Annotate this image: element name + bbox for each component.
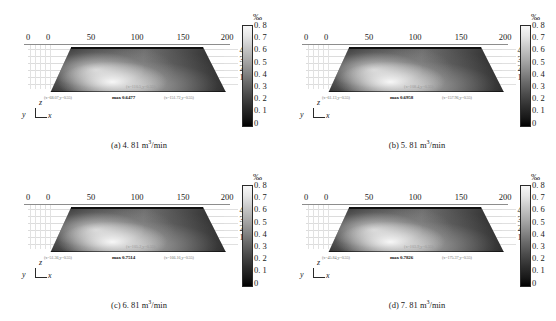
x-tick-label: 150 <box>455 192 468 202</box>
x-tick-label: 200 <box>221 32 234 42</box>
colorbar-tick-label: 0. 1 <box>532 265 545 275</box>
max-value-label: max 0.6477 <box>112 95 135 101</box>
colorbar-tick-label: 0. 6 <box>254 44 267 54</box>
axis-label-x: x <box>326 111 330 120</box>
colorbar-tick-label: 0. 3 <box>254 241 267 251</box>
contour-panel-d: 0050100150200 403020100 (x=45.84,y=0.55)… <box>278 160 556 320</box>
caption-text: (c) 6. 81 m <box>111 300 148 310</box>
x-tick-label: 0 <box>304 32 308 42</box>
contour-panel-b: 0050100150200 403020100 (x=61.13,y=0.55)… <box>278 0 556 160</box>
x-axis-ticks: 0050100150200 <box>296 192 524 204</box>
probe-label-right: (x=175.37,y=0.55) <box>442 255 472 260</box>
colorbar-tick-label: 0. 8 <box>532 20 545 30</box>
axis-label-y: y <box>300 270 304 279</box>
probe-label-right: (x=151.72,y=0.55) <box>164 95 194 100</box>
colorbar-ticks: 0. 80. 70. 60. 50. 40. 30. 20. 10 <box>532 20 554 132</box>
triad-corner-icon <box>313 108 325 118</box>
colorbar-tick-label: 0. 1 <box>254 105 267 115</box>
colorbar-tick-label: 0. 7 <box>532 192 545 202</box>
colorbar-tick-label: 0. 1 <box>532 105 545 115</box>
x-tick-label: 100 <box>131 192 144 202</box>
colorbar: ‰ 0. 80. 70. 60. 50. 40. 30. 20. 10 <box>241 12 275 132</box>
colorbar-tick-label: 0. 4 <box>254 69 267 79</box>
axis-label-x: x <box>48 271 52 280</box>
caption-text: (a) 4. 81 m <box>111 140 148 150</box>
axis-label-y: y <box>300 110 304 119</box>
axis-triad: z y x <box>300 258 340 284</box>
triad-corner-icon <box>35 108 47 118</box>
probe-label-right: (x=166.16,y=0.55) <box>164 255 194 260</box>
colorbar: ‰ 0. 80. 70. 60. 50. 40. 30. 20. 10 <box>519 172 553 292</box>
max-value-label: max 0.7826 <box>390 255 413 261</box>
colorbar-tick-label: 0 <box>254 278 258 288</box>
colorbar: ‰ 0. 80. 70. 60. 50. 40. 30. 20. 10 <box>241 172 275 292</box>
x-axis-ticks: 0050100150200 <box>18 192 246 204</box>
surface-top-edge <box>349 207 481 209</box>
colorbar-tick-label: 0. 6 <box>532 204 545 214</box>
axis-label-x: x <box>326 271 330 280</box>
caption-unit-tail: /min <box>430 140 446 150</box>
caption-text: (d) 7. 81 m <box>389 300 427 310</box>
probe-label-right: (x=157.96,y=0.55) <box>442 95 472 100</box>
x-tick-label: 50 <box>365 32 374 42</box>
x-tick-label: 0 <box>26 32 30 42</box>
x-axis-ticks: 0050100150200 <box>296 32 524 44</box>
colorbar-tick-label: 0 <box>532 278 536 288</box>
colorbar-tick-label: 0. 3 <box>532 241 545 251</box>
x-tick-label: 200 <box>221 192 234 202</box>
x-tick-label: 150 <box>455 32 468 42</box>
colorbar-tick-label: 0. 4 <box>532 69 545 79</box>
axis-triad: z y x <box>300 98 340 124</box>
colorbar-tick-label: 0. 3 <box>532 81 545 91</box>
surface-top-edge <box>349 47 481 49</box>
x-tick-label: 0 <box>46 32 50 42</box>
colorbar-tick-label: 0. 2 <box>532 93 545 103</box>
x-tick-label: 0 <box>324 32 328 42</box>
colorbar-ticks: 0. 80. 70. 60. 50. 40. 30. 20. 10 <box>254 180 276 292</box>
axis-label-x: x <box>48 111 52 120</box>
colorbar-tick-label: 0 <box>254 118 258 128</box>
panel-caption: (c) 6. 81 m3/min <box>0 296 278 311</box>
colorbar-tick-label: 0. 4 <box>254 229 267 239</box>
x-tick-label: 50 <box>87 192 96 202</box>
probe-label-mid: (x=110.5,y=0.55) <box>126 84 155 89</box>
colorbar: ‰ 0. 80. 70. 60. 50. 40. 30. 20. 10 <box>519 12 553 132</box>
x-tick-label: 100 <box>409 32 422 42</box>
colorbar-tick-label: 0. 6 <box>532 44 545 54</box>
x-tick-label: 0 <box>46 192 50 202</box>
colorbar-gradient <box>520 25 531 127</box>
caption-unit-tail: /min <box>151 300 167 310</box>
caption-text: (b) 5. 81 m <box>389 140 427 150</box>
figure-container: 0050100150200 403020100 (x=68.07,y=0.55)… <box>0 0 556 321</box>
panel-caption: (b) 5. 81 m3/min <box>278 136 556 151</box>
colorbar-tick-label: 0 <box>532 118 536 128</box>
axis-label-y: y <box>22 270 26 279</box>
x-tick-label: 0 <box>324 192 328 202</box>
axis-label-z: z <box>39 258 42 267</box>
x-tick-label: 100 <box>409 192 422 202</box>
colorbar-tick-label: 0. 2 <box>532 253 545 263</box>
panel-caption: (d) 7. 81 m3/min <box>278 296 556 311</box>
colorbar-tick-label: 0. 2 <box>254 253 267 263</box>
colorbar-tick-label: 0. 8 <box>532 180 545 190</box>
axis-label-y: y <box>22 110 26 119</box>
x-axis-ticks: 0050100150200 <box>18 32 246 44</box>
colorbar-ticks: 0. 80. 70. 60. 50. 40. 30. 20. 10 <box>254 20 276 132</box>
surface-top-edge <box>71 207 203 209</box>
x-tick-label: 50 <box>87 32 96 42</box>
colorbar-tick-label: 0. 5 <box>532 57 545 67</box>
caption-unit-tail: /min <box>151 140 167 150</box>
colorbar-tick-label: 0. 7 <box>254 192 267 202</box>
x-tick-label: 50 <box>365 192 374 202</box>
colorbar-tick-label: 0. 7 <box>532 32 545 42</box>
max-value-label: max 0.6958 <box>390 95 413 101</box>
contour-panel-c: 0050100150200 403020100 (x=51.36,y=0.55)… <box>0 160 278 320</box>
colorbar-tick-label: 0. 5 <box>254 217 267 227</box>
colorbar-tick-label: 0. 2 <box>254 93 267 103</box>
axis-label-z: z <box>317 98 320 107</box>
x-tick-label: 150 <box>177 192 190 202</box>
contour-panel-a: 0050100150200 403020100 (x=68.07,y=0.55)… <box>0 0 278 160</box>
colorbar-tick-label: 0. 5 <box>254 57 267 67</box>
colorbar-tick-label: 0. 3 <box>254 81 267 91</box>
x-tick-label: 150 <box>177 32 190 42</box>
